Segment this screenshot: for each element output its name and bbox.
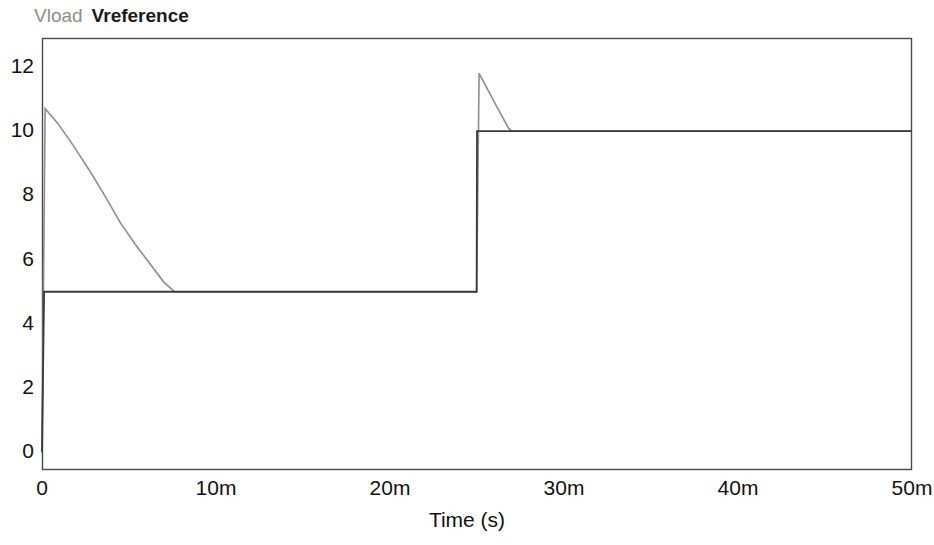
x-axis-tick-label: 50m <box>872 476 934 500</box>
y-axis-tick-label: 2 <box>0 375 34 399</box>
x-axis-tick-label: 10m <box>176 476 256 500</box>
y-axis-tick-label: 0 <box>0 439 34 463</box>
x-axis-tick-label: 30m <box>524 476 604 500</box>
y-axis-tick-label: 8 <box>0 182 34 206</box>
y-axis-tick-label: 6 <box>0 247 34 271</box>
x-axis-tick-label: 20m <box>350 476 430 500</box>
x-axis-tick-label: 0 <box>2 476 82 500</box>
plot-area <box>0 0 934 545</box>
y-axis-tick-label: 4 <box>0 311 34 335</box>
y-axis-tick-label: 12 <box>0 54 34 78</box>
chart-container: Vload Vreference 024681012 010m20m30m40m… <box>0 0 934 545</box>
y-axis-tick-label: 10 <box>0 118 34 142</box>
x-axis-tick-label: 40m <box>698 476 778 500</box>
x-axis-title: Time (s) <box>0 508 934 532</box>
